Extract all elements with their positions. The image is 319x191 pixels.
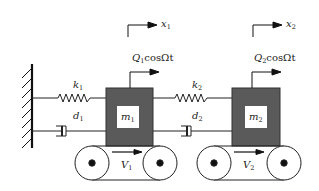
label-Q1-force: Q1cosΩt [132,52,173,65]
velocity-arrow-V2 [234,150,264,155]
force-arrow-Q1 [130,69,159,88]
displacement-arrow-x1 [128,22,157,37]
label-V2: V2 [243,159,254,172]
fixed-wall [22,64,32,148]
velocity-arrow-V1 [112,150,142,155]
label-V1: V1 [121,159,132,172]
spring-k1 [32,94,106,102]
spring-k2 [153,94,232,102]
damper-d1 [32,126,106,136]
label-x1: x1 [161,18,171,31]
displacement-arrow-x2 [253,22,282,37]
diagram-canvas: x1 x2 Q1cosΩt Q2cosΩt k1 k2 d1 d2 m1 m2 … [0,0,319,191]
force-arrow-Q2 [252,69,281,88]
label-d2: d2 [192,110,203,123]
damper-d2 [153,126,232,136]
label-x2: x2 [286,18,296,31]
label-k1: k1 [73,79,83,92]
label-k2: k2 [192,79,202,92]
label-Q2-force: Q2cosΩt [254,52,295,65]
label-d1: d1 [73,110,84,123]
